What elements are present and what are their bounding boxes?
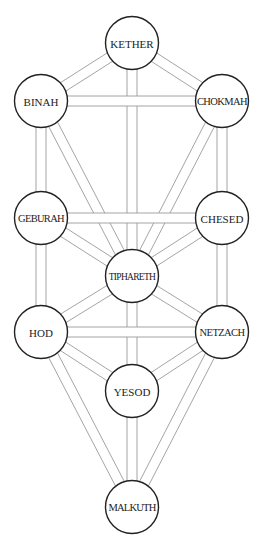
node-label-binah: BINAH [24,96,59,108]
node-chesed: CHESED [196,192,249,245]
node-netzach: NETZACH [196,306,249,359]
node-chokmah: CHOKMAH [196,75,249,128]
node-binah: BINAH [15,75,68,128]
node-malkuth: MALKUTH [106,481,159,534]
node-label-geburah: GEBURAH [18,213,65,224]
node-tiphareth: TIPHARETH [106,250,159,303]
node-label-malkuth: MALKUTH [109,502,157,513]
node-label-tiphareth: TIPHARETH [109,272,156,282]
node-label-chokmah: CHOKMAH [197,96,248,107]
node-label-yesod: YESOD [114,386,151,398]
node-kether: KETHER [106,17,159,70]
tree-of-life-diagram: KETHERBINAHCHOKMAHGEBURAHCHESEDTIPHARETH… [0,0,261,549]
node-label-chesed: CHESED [201,213,244,225]
node-geburah: GEBURAH [15,192,68,245]
node-hod: HOD [15,306,68,359]
node-label-hod: HOD [29,327,53,339]
node-label-kether: KETHER [110,38,154,50]
path-kether-tiphareth [127,43,137,276]
node-label-netzach: NETZACH [200,327,246,338]
node-yesod: YESOD [106,365,159,418]
